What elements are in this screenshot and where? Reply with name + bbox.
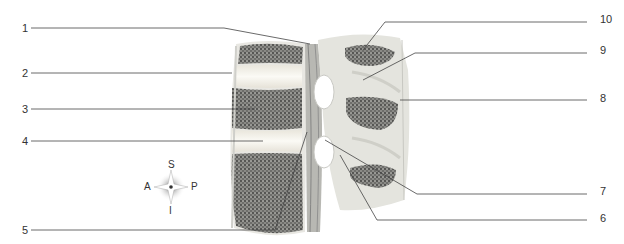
vertebral-bodies [230, 41, 307, 235]
vertebral-illustration [0, 0, 624, 244]
posterior-elements [314, 34, 409, 210]
label-2: 2 [22, 67, 28, 79]
label-8: 8 [600, 92, 606, 104]
label-1: 1 [22, 22, 28, 34]
label-4: 4 [22, 135, 28, 147]
label-7: 7 [600, 185, 606, 197]
label-10: 10 [600, 13, 612, 25]
compass-anterior: A [144, 182, 151, 192]
label-5: 5 [22, 224, 28, 236]
orientation-compass [154, 170, 188, 204]
label-3: 3 [22, 103, 28, 115]
compass-superior: S [168, 160, 175, 170]
anatomy-diagram: 1 2 3 4 5 10 9 8 7 6 S I A P [0, 0, 624, 244]
compass-inferior: I [169, 206, 172, 216]
label-9: 9 [600, 44, 606, 56]
label-6: 6 [600, 212, 606, 224]
compass-posterior: P [191, 182, 198, 192]
